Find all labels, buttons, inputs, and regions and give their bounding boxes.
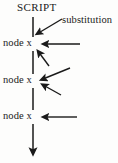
arrow-into-node-1-upper bbox=[43, 68, 70, 79]
node-label-0: node x bbox=[3, 38, 32, 49]
script-title-label: SCRIPT bbox=[17, 2, 57, 13]
arrow-into-node-1-lower bbox=[44, 86, 61, 96]
substitution-annotation-label: substitution bbox=[62, 15, 112, 26]
node-label-1: node x bbox=[3, 75, 32, 86]
substitution-arrow bbox=[39, 19, 63, 33]
arrow-up-into-node-0 bbox=[39, 53, 49, 67]
script-substitution-diagram: SCRIPT substitution node x node x node x bbox=[0, 0, 118, 163]
node-label-2: node x bbox=[3, 111, 32, 122]
